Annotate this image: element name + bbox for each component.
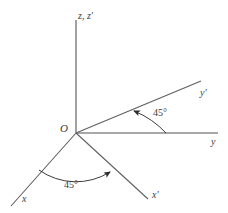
y-axis-label: y (211, 137, 215, 147)
angle-label-upper: 45° (153, 108, 167, 118)
coordinate-rotation-figure: z, z′ y y′ x x′ O 45° 45° (0, 0, 228, 213)
x-prime-axis-line (76, 133, 148, 199)
y-prime-axis-label: y′ (200, 88, 207, 98)
x-prime-axis-label: x′ (152, 190, 159, 200)
y-prime-axis-line (76, 81, 201, 133)
x-axis-label: x (22, 194, 26, 204)
x-axis-line (11, 133, 76, 206)
z-axis-label: z, z′ (78, 11, 93, 21)
diagram-canvas (0, 0, 228, 213)
origin-label: O (60, 123, 68, 134)
angle-label-lower: 45° (64, 180, 78, 190)
